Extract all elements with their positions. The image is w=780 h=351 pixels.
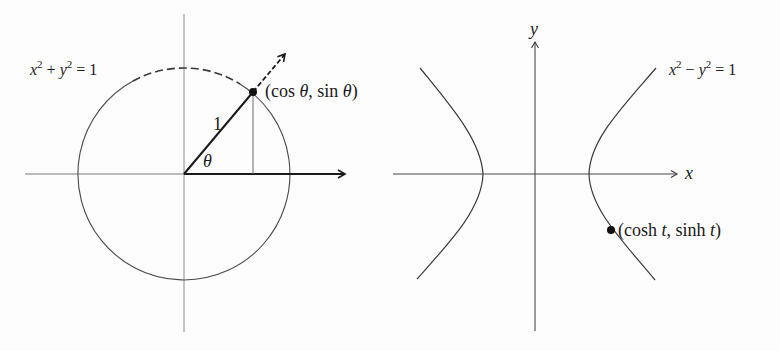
hyperbola-point-label: (cosh t, sinh t) <box>618 221 721 239</box>
figure: x2 + y2 = 1 1 θ (cos θ, sin θ) y x x2 − … <box>0 0 780 351</box>
angle-theta-label: θ <box>203 152 212 170</box>
radius-label: 1 <box>213 115 222 133</box>
theta-symbol: θ <box>343 81 352 101</box>
hyperbola-point <box>607 226 615 234</box>
circle-point-label: (cos θ, sin θ) <box>265 82 358 100</box>
minus-sign: − <box>682 61 699 78</box>
hyperbola-equation-label: x2 − y2 = 1 <box>669 62 736 78</box>
x-axis-label: x <box>685 164 693 182</box>
label-part: ) <box>352 81 358 101</box>
circle-point <box>249 88 257 96</box>
unit-circle-diagram <box>0 0 780 351</box>
label-part: ) <box>715 220 721 240</box>
label-part: , sinh <box>667 220 711 240</box>
unit-circle-dashed-arc <box>133 68 240 84</box>
y-axis-label: y <box>530 20 538 38</box>
equals-one: = 1 <box>711 61 736 78</box>
var-y: y <box>699 61 706 78</box>
plus-sign: + <box>43 61 60 78</box>
label-part: , sin <box>308 81 343 101</box>
equals-one: = 1 <box>72 61 97 78</box>
circle-equation-label: x2 + y2 = 1 <box>30 62 97 78</box>
label-part: (cosh <box>618 220 662 240</box>
label-part: (cos <box>265 81 300 101</box>
var-y: y <box>60 61 67 78</box>
